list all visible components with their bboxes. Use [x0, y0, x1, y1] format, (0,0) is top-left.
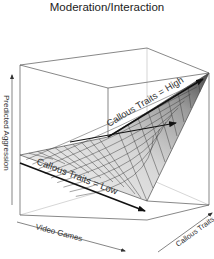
y-axis-label: Predicted Aggression: [2, 95, 11, 171]
z-axis-label: Callous Traits: [174, 214, 214, 248]
interaction-plot: Moderation/Interaction: [0, 0, 214, 259]
x-axis-label: Video Games: [34, 222, 83, 243]
plot-title: Moderation/Interaction: [0, 1, 214, 13]
plot-canvas: Callous Traits = High Callous Traits = L…: [0, 0, 214, 259]
